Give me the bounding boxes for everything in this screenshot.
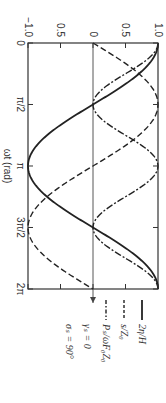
legend-label: s/Z₀ — [119, 324, 130, 340]
x-tick-label: π/2 — [15, 97, 26, 113]
plot-area — [28, 43, 158, 303]
x-tick-label: 2π — [15, 283, 26, 296]
x-tick-label: 3π/2 — [15, 217, 26, 238]
legend-label: 2η/H — [137, 324, 148, 345]
series-line — [93, 43, 158, 289]
y-tick-label: 0.5 — [120, 23, 131, 37]
y-tick-label: 0.5 — [55, 23, 66, 37]
x-tick-label: 0 — [15, 40, 26, 46]
arrow-icon — [90, 297, 96, 303]
y-tick-label: 0 — [88, 31, 99, 37]
chart: −1.00.500.51.0 0π/2π3π/22π ωt (rad) 2η/H… — [0, 0, 166, 403]
parameter-annotation: γₛ = 0 — [82, 324, 93, 349]
legend: 2η/Hs/Z₀Pₛ/ωF₀Z₀γₛ = 0σₛ = 90° — [64, 300, 148, 363]
legend-label: Pₛ/ωF₀Z₀ — [101, 323, 112, 363]
x-axis-label: ωt (rad) — [2, 149, 13, 183]
x-tick-label: π — [15, 163, 26, 170]
y-tick-label: 1.0 — [153, 23, 164, 37]
rotated-figure: −1.00.500.51.0 0π/2π3π/22π ωt (rad) 2η/H… — [0, 0, 166, 403]
y-tick-label: −1.0 — [23, 17, 34, 37]
parameter-annotation: σₛ = 90° — [64, 324, 75, 359]
